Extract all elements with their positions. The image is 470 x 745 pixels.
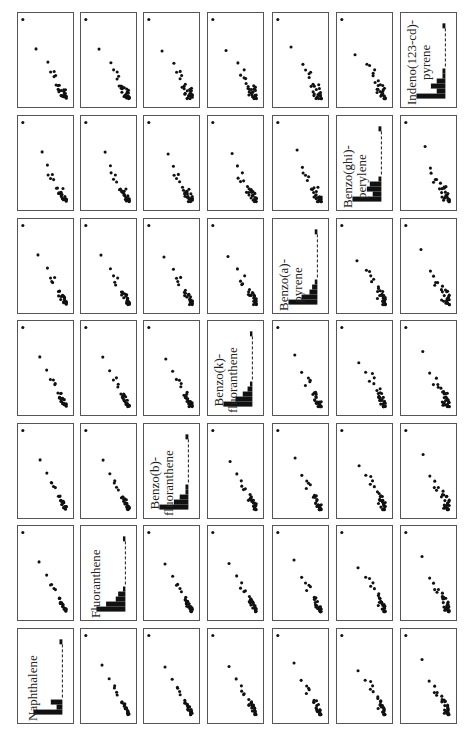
scatter-panel bbox=[336, 525, 393, 621]
scatter-panel bbox=[272, 423, 329, 519]
scatter-panel bbox=[143, 628, 200, 724]
variable-label-line: fluoranthene bbox=[162, 450, 176, 516]
histogram-panel-indeno-123-cd-pyrene: Indeno(123-cd)-pyrene bbox=[400, 12, 457, 108]
variable-label: Benzo(b)-fluoranthene bbox=[148, 450, 176, 516]
scatter-panel bbox=[80, 115, 137, 211]
variable-label-line: Fluoranthene bbox=[89, 549, 103, 618]
variable-label: Indeno(123-cd)-pyrene bbox=[405, 20, 433, 105]
scatter-panel bbox=[400, 115, 457, 211]
variable-label-line: Indeno(123-cd)- bbox=[405, 20, 419, 105]
variable-label-line: perylene bbox=[355, 145, 369, 208]
scatterplot-matrix: Indeno(123-cd)-pyreneBenzo(ghi)-perylene… bbox=[0, 0, 470, 745]
scatter-panel bbox=[336, 320, 393, 416]
scatter-panel bbox=[272, 115, 329, 211]
scatter-panel bbox=[17, 423, 74, 519]
histogram-panel-benzo-k-fluoranthene: Benzo(k)-fluoranthene bbox=[207, 320, 264, 416]
scatter-panel bbox=[143, 320, 200, 416]
scatter-panel bbox=[143, 115, 200, 211]
scatter-panel bbox=[17, 525, 74, 621]
scatter-panel bbox=[17, 115, 74, 211]
variable-label: Benzo(a)-pyrene bbox=[277, 259, 305, 311]
variable-label: Benzo(ghi)-perylene bbox=[341, 145, 369, 208]
scatter-panel bbox=[400, 218, 457, 314]
scatter-panel bbox=[80, 628, 137, 724]
scatter-panel bbox=[336, 423, 393, 519]
scatter-panel bbox=[143, 525, 200, 621]
scatter-panel bbox=[272, 320, 329, 416]
scatter-panel bbox=[17, 218, 74, 314]
scatter-panel bbox=[80, 320, 137, 416]
scatter-panel bbox=[207, 218, 264, 314]
histogram-panel-naphthalene: Naphthalene bbox=[17, 628, 74, 724]
scatter-panel bbox=[336, 12, 393, 108]
histogram-panel-fluoranthene: Fluoranthene bbox=[80, 525, 137, 621]
variable-label-line: Naphthalene bbox=[26, 655, 40, 721]
variable-label-line: Benzo(a)- bbox=[277, 259, 291, 311]
scatter-panel bbox=[207, 115, 264, 211]
scatter-panel bbox=[336, 628, 393, 724]
scatter-panel bbox=[80, 423, 137, 519]
scatter-panel bbox=[143, 12, 200, 108]
scatter-panel bbox=[272, 628, 329, 724]
scatter-panel bbox=[400, 320, 457, 416]
scatter-panel bbox=[207, 12, 264, 108]
variable-label-line: pyrene bbox=[419, 20, 433, 105]
scatter-panel bbox=[400, 423, 457, 519]
variable-label-line: Benzo(k)- bbox=[212, 347, 226, 413]
scatter-panel bbox=[336, 218, 393, 314]
scatter-panel bbox=[80, 218, 137, 314]
variable-label: Benzo(k)-fluoranthene bbox=[212, 347, 240, 413]
scatter-panel bbox=[207, 628, 264, 724]
scatter-panel bbox=[207, 423, 264, 519]
scatter-panel bbox=[272, 12, 329, 108]
scatter-panel bbox=[207, 525, 264, 621]
histogram-panel-benzo-a-pyrene: Benzo(a)-pyrene bbox=[272, 218, 329, 314]
variable-label: Naphthalene bbox=[26, 655, 40, 721]
variable-label: Fluoranthene bbox=[89, 549, 103, 618]
variable-label-line: Benzo(ghi)- bbox=[341, 145, 355, 208]
variable-label-line: pyrene bbox=[291, 259, 305, 311]
scatter-panel bbox=[143, 218, 200, 314]
scatter-panel bbox=[272, 525, 329, 621]
scatter-panel bbox=[17, 320, 74, 416]
histogram-panel-benzo-ghi-perylene: Benzo(ghi)-perylene bbox=[336, 115, 393, 211]
scatter-panel bbox=[400, 525, 457, 621]
scatter-panel bbox=[17, 12, 74, 108]
histogram-panel-benzo-b-fluoranthene: Benzo(b)-fluoranthene bbox=[143, 423, 200, 519]
scatter-panel bbox=[400, 628, 457, 724]
scatter-panel bbox=[80, 12, 137, 108]
variable-label-line: fluoranthene bbox=[226, 347, 240, 413]
variable-label-line: Benzo(b)- bbox=[148, 450, 162, 516]
